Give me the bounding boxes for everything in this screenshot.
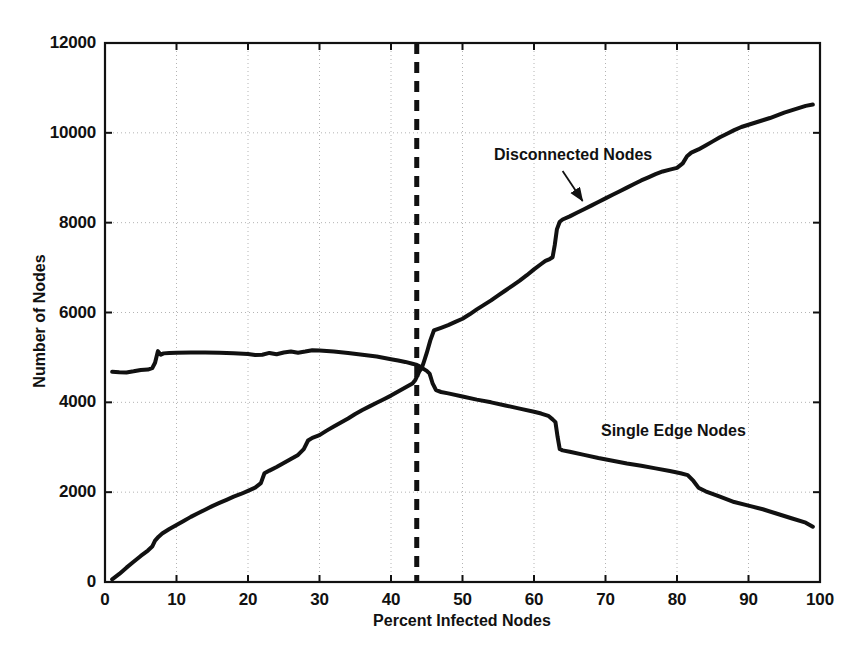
annotation-single-edge-nodes: Single Edge Nodes	[601, 422, 746, 440]
chart-plot-area	[0, 0, 861, 652]
y-tick-label: 6000	[20, 303, 96, 323]
x-axis-label: Percent Infected Nodes	[373, 612, 551, 630]
y-tick-label: 10000	[20, 123, 96, 143]
y-tick-label: 0	[20, 572, 96, 592]
x-tick-label: 90	[739, 590, 758, 610]
x-tick-label: 60	[525, 590, 544, 610]
disconnected-nodes-arrow	[563, 171, 583, 201]
chart-figure: Number of Nodes Percent Infected Nodes D…	[0, 0, 861, 652]
x-tick-label: 20	[239, 590, 258, 610]
x-tick-label: 40	[382, 590, 401, 610]
y-tick-label: 12000	[20, 33, 96, 53]
annotation-disconnected-nodes: Disconnected Nodes	[494, 146, 652, 164]
x-tick-label: 10	[167, 590, 186, 610]
x-tick-label: 70	[596, 590, 615, 610]
x-tick-label: 100	[806, 590, 834, 610]
x-tick-label: 80	[668, 590, 687, 610]
x-tick-label: 30	[310, 590, 329, 610]
y-tick-label: 8000	[20, 213, 96, 233]
y-tick-label: 4000	[20, 392, 96, 412]
y-tick-label: 2000	[20, 482, 96, 502]
x-tick-label: 0	[100, 590, 109, 610]
x-tick-label: 50	[453, 590, 472, 610]
gridlines	[105, 43, 820, 582]
